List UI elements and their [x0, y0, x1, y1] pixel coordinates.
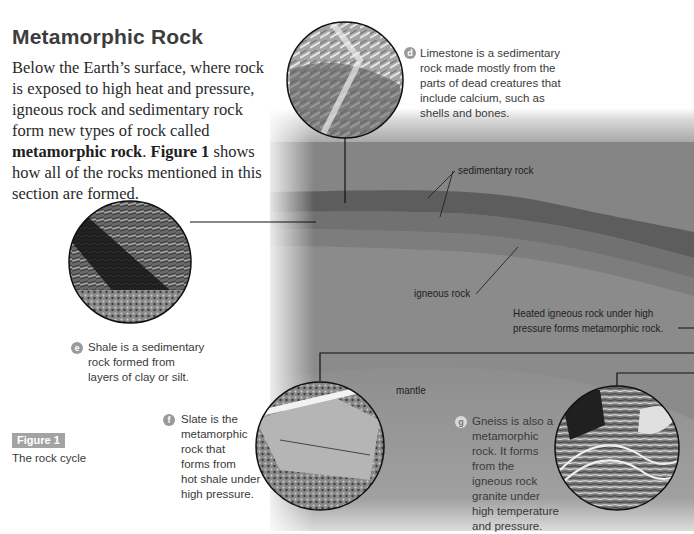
- callout-line: metamorphic: [181, 427, 271, 442]
- label-heated-line1: Heated igneous rock under high: [513, 307, 653, 319]
- callout-line: granite under: [472, 489, 582, 504]
- section-title: Metamorphic Rock: [12, 25, 203, 49]
- figure-caption: The rock cycle: [12, 452, 86, 464]
- badge-d-icon: d: [404, 47, 416, 59]
- label-sedimentary-rock: sedimentary rock: [458, 164, 533, 176]
- callout-line: rock formed from: [88, 355, 238, 370]
- callout-limestone: d Limestone is a sedimentary rock made m…: [420, 46, 640, 121]
- key-term-metamorphic-rock: metamorphic rock: [12, 142, 142, 161]
- callout-gneiss: g Gneiss is also a metamorphic rock. It …: [472, 414, 582, 534]
- label-igneous-rock: igneous rock: [414, 287, 470, 299]
- shale-photo: [65, 198, 195, 330]
- callout-slate: f Slate is the metamorphic rock that for…: [181, 412, 271, 502]
- callout-line: rock. It forms: [472, 444, 582, 459]
- callout-line: include calcium, such as: [420, 91, 640, 106]
- callout-line: parts of dead creatures that: [420, 76, 640, 91]
- badge-f-icon: f: [163, 414, 175, 426]
- callout-line: layers of clay or silt.: [88, 370, 238, 385]
- callout-line: Shale is a sedimentary: [88, 340, 238, 355]
- intro-paragraph: Below the Earth’s surface, where rock is…: [12, 57, 274, 204]
- badge-g-icon: g: [455, 416, 467, 428]
- callout-line: and pressure.: [472, 519, 582, 534]
- callout-line: shells and bones.: [420, 106, 640, 121]
- label-mantle: mantle: [396, 384, 426, 396]
- callout-line: Limestone is a sedimentary: [420, 46, 640, 61]
- callout-line: metamorphic: [472, 429, 582, 444]
- callout-line: hot shale under: [181, 472, 271, 487]
- callout-shale: e Shale is a sedimentary rock formed fro…: [88, 340, 238, 385]
- callout-line: Slate is the: [181, 412, 271, 427]
- figure-reference-link[interactable]: Figure 1: [151, 142, 210, 161]
- callout-line: forms from: [181, 457, 271, 472]
- label-heated-line2: pressure forms metamorphic rock.: [513, 322, 663, 334]
- figure-tag: Figure 1: [12, 433, 65, 448]
- callout-line: rock that: [181, 442, 271, 457]
- intro-text: Below the Earth’s surface, where rock is…: [12, 58, 264, 140]
- callout-line: from the: [472, 459, 582, 474]
- callout-line: rock made mostly from the: [420, 61, 640, 76]
- callout-line: igneous rock: [472, 474, 582, 489]
- intro-text-punct: .: [142, 142, 150, 161]
- badge-e-icon: e: [71, 342, 83, 354]
- callout-line: high temperature: [472, 504, 582, 519]
- callout-line: high pressure.: [181, 487, 271, 502]
- callout-line: Gneiss is also a: [472, 414, 582, 429]
